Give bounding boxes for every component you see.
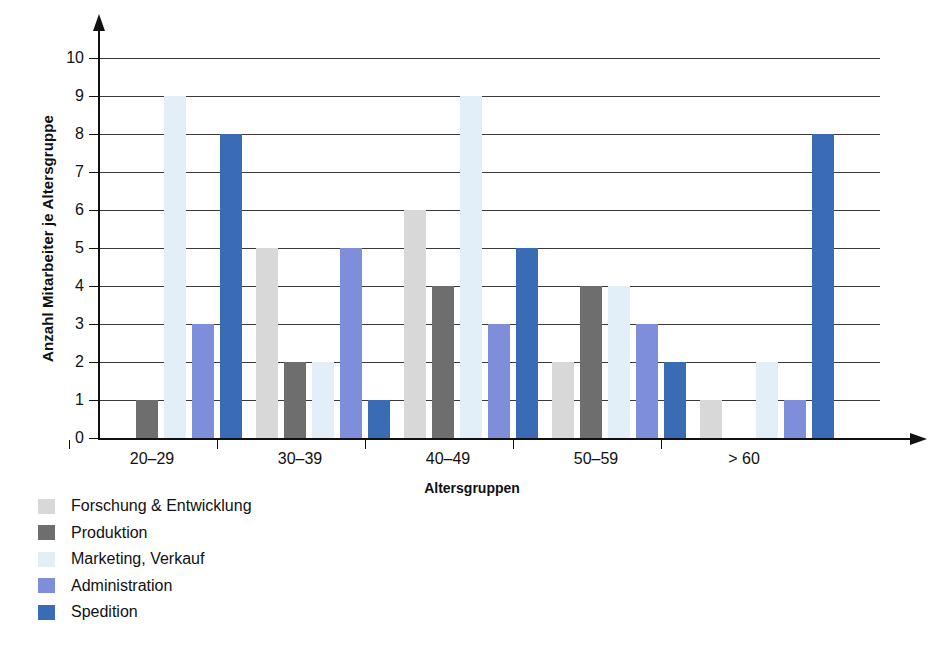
legend-swatch — [38, 552, 55, 567]
gridline — [98, 172, 880, 173]
legend-swatch — [38, 605, 55, 620]
bar — [340, 248, 362, 438]
legend-item[interactable]: Forschung & Entwicklung — [38, 493, 458, 520]
legend-item[interactable]: Marketing, Verkauf — [38, 546, 458, 573]
y-axis-tick-label: 10 — [56, 49, 84, 67]
y-axis-tick — [89, 172, 98, 173]
x-axis-category-label: 40–49 — [374, 450, 522, 468]
x-axis-category-label: > 60 — [670, 450, 818, 468]
bar-chart: Anzahl Mitarbeiter je Altersgruppe 01234… — [0, 0, 944, 658]
gridline — [98, 248, 880, 249]
y-axis-title: Anzahl Mitarbeiter je Altersgruppe — [39, 74, 56, 404]
legend-swatch — [38, 578, 55, 593]
x-axis-tick — [365, 440, 366, 449]
y-axis-tick-label: 6 — [56, 201, 84, 219]
bar — [432, 286, 454, 438]
bar — [636, 324, 658, 438]
bar — [756, 362, 778, 438]
bar — [460, 96, 482, 438]
y-axis-tick — [89, 400, 98, 401]
y-axis-tick-label: 7 — [56, 163, 84, 181]
x-axis-category-label: 50–59 — [522, 450, 670, 468]
y-axis-tick-label: 9 — [56, 87, 84, 105]
x-axis-arrow-icon — [910, 433, 927, 445]
y-axis-tick-label: 4 — [56, 277, 84, 295]
gridline — [98, 286, 880, 287]
x-axis-category-label: 20–29 — [78, 450, 226, 468]
x-axis-tick — [661, 440, 662, 449]
plot-area: Anzahl Mitarbeiter je Altersgruppe 01234… — [0, 0, 944, 470]
gridline — [98, 210, 880, 211]
legend-label: Administration — [71, 577, 172, 595]
bar — [404, 210, 426, 438]
legend: Forschung & EntwicklungProduktionMarketi… — [38, 493, 458, 626]
x-axis-category-label: 30–39 — [226, 450, 374, 468]
bar — [700, 400, 722, 438]
y-axis-tick — [89, 286, 98, 287]
gridline — [98, 58, 880, 59]
y-axis-tick — [89, 58, 98, 59]
bar — [784, 400, 806, 438]
bar — [164, 96, 186, 438]
y-axis-tick — [89, 210, 98, 211]
bar — [256, 248, 278, 438]
x-axis-tick — [217, 440, 218, 449]
bar — [368, 400, 390, 438]
bar — [664, 362, 686, 438]
y-axis-tick-label: 2 — [56, 353, 84, 371]
gridline — [98, 134, 880, 135]
bar — [312, 362, 334, 438]
y-axis-line — [98, 30, 100, 440]
y-axis-tick — [89, 324, 98, 325]
bar — [488, 324, 510, 438]
bar — [580, 286, 602, 438]
bar — [220, 134, 242, 438]
legend-swatch — [38, 499, 55, 514]
y-axis-tick — [89, 96, 98, 97]
x-axis-tick — [513, 440, 514, 449]
y-axis-tick-label: 3 — [56, 315, 84, 333]
bar — [552, 362, 574, 438]
bar — [608, 286, 630, 438]
bar — [812, 134, 834, 438]
bar — [284, 362, 306, 438]
y-axis-tick — [89, 134, 98, 135]
y-axis-tick-label: 5 — [56, 239, 84, 257]
legend-item[interactable]: Administration — [38, 573, 458, 600]
legend-label: Spedition — [71, 603, 138, 621]
legend-label: Produktion — [71, 524, 148, 542]
y-axis-tick — [89, 362, 98, 363]
y-axis-tick — [89, 248, 98, 249]
legend-label: Forschung & Entwicklung — [71, 497, 252, 515]
y-axis-tick-label: 0 — [56, 429, 84, 447]
x-axis-tick — [69, 440, 70, 449]
legend-item[interactable]: Produktion — [38, 520, 458, 547]
y-axis-tick-label: 1 — [56, 391, 84, 409]
legend-swatch — [38, 525, 55, 540]
x-axis-line — [98, 438, 910, 440]
y-axis-tick — [89, 438, 98, 439]
y-axis-tick-label: 8 — [56, 125, 84, 143]
bar — [516, 248, 538, 438]
bar — [192, 324, 214, 438]
gridline — [98, 96, 880, 97]
legend-label: Marketing, Verkauf — [71, 550, 204, 568]
y-axis-arrow-icon — [93, 14, 105, 31]
bar — [136, 400, 158, 438]
legend-item[interactable]: Spedition — [38, 599, 458, 626]
